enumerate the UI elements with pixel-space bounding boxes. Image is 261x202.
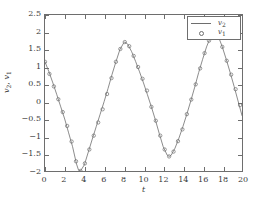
y-tick-mark <box>238 155 242 156</box>
y-tick-label: 2 <box>36 28 41 36</box>
y-tick-mark <box>238 103 242 104</box>
x-tick-mark <box>45 167 46 171</box>
plot-area: v2 v1 <box>44 14 243 172</box>
y-tick-label: −0.5 <box>22 115 41 123</box>
x-tick-label: 8 <box>121 176 126 184</box>
x-tick-mark <box>105 167 106 171</box>
x-axis-label-text: t <box>142 185 145 194</box>
figure-canvas: v2, v1 −2−1.5−1−0.500.511.522.5 02468101… <box>0 0 261 202</box>
x-tick-label: 10 <box>138 176 148 184</box>
x-tick-label: 4 <box>81 176 86 184</box>
x-tick-mark <box>204 167 205 171</box>
y-tick-label: 2.5 <box>28 10 41 18</box>
y-axis-label-v1-sub: 1 <box>5 71 12 75</box>
y-axis-label-separator: , <box>2 80 11 85</box>
x-tick-mark <box>65 167 66 171</box>
x-tick-mark <box>224 167 225 171</box>
x-tick-mark <box>145 15 146 19</box>
x-tick-label: 2 <box>61 176 66 184</box>
x-tick-mark <box>125 167 126 171</box>
legend-entry-v1: v1 <box>190 28 237 37</box>
y-tick-label: 1.5 <box>28 45 41 53</box>
x-tick-label: 12 <box>158 176 168 184</box>
y-tick-mark <box>238 138 242 139</box>
x-tick-mark <box>125 15 126 19</box>
y-axis-label-v2-base: v <box>2 88 11 93</box>
x-tick-mark <box>184 167 185 171</box>
y-tick-label: −1 <box>29 133 41 141</box>
x-tick-mark <box>164 167 165 171</box>
legend-marker-swatch <box>190 28 212 37</box>
x-tick-label: 18 <box>218 176 228 184</box>
y-tick-label: −2 <box>29 168 41 176</box>
x-tick-mark <box>65 15 66 19</box>
y-tick-mark <box>45 33 49 34</box>
x-tick-label: 16 <box>198 176 208 184</box>
x-tick-mark <box>184 15 185 19</box>
legend-line-swatch <box>190 19 212 28</box>
legend: v2 v1 <box>187 16 241 40</box>
x-tick-mark <box>105 15 106 19</box>
x-tick-mark <box>85 167 86 171</box>
y-axis-label-v1-base: v <box>2 75 11 80</box>
x-tick-label: 0 <box>41 176 46 184</box>
y-tick-mark <box>238 50 242 51</box>
y-tick-mark <box>45 138 49 139</box>
y-tick-label: −1.5 <box>22 150 41 158</box>
y-tick-mark <box>45 50 49 51</box>
y-tick-mark <box>238 120 242 121</box>
y-tick-mark <box>238 68 242 69</box>
x-tick-mark <box>164 15 165 19</box>
y-tick-label: 1 <box>36 63 41 71</box>
x-tick-label: 14 <box>178 176 188 184</box>
y-axis-label-v2-sub: 2 <box>5 85 12 89</box>
x-tick-mark <box>145 167 146 171</box>
y-tick-mark <box>45 68 49 69</box>
x-axis-label: t <box>0 186 261 194</box>
series-v1-markers <box>45 31 242 171</box>
y-tick-mark <box>45 155 49 156</box>
y-axis-label: v2, v1 <box>2 71 13 93</box>
legend-label-v1: v1 <box>212 28 226 38</box>
x-tick-label: 20 <box>238 176 248 184</box>
y-tick-mark <box>238 85 242 86</box>
y-tick-mark <box>45 85 49 86</box>
series-v2-line <box>45 32 242 171</box>
y-tick-label: 0 <box>36 98 41 106</box>
x-tick-mark <box>45 15 46 19</box>
y-tick-mark <box>45 120 49 121</box>
x-tick-label: 6 <box>101 176 106 184</box>
y-tick-label: 0.5 <box>28 80 41 88</box>
y-tick-mark <box>45 103 49 104</box>
x-tick-mark <box>85 15 86 19</box>
